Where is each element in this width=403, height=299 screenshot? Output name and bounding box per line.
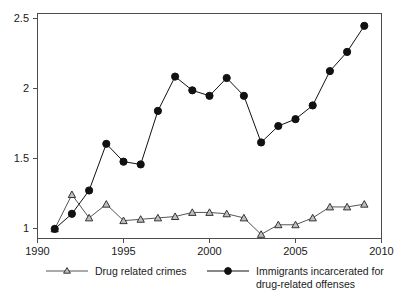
line-chart: 1 1.5 2 2.5 1990 1995 2000 2005 2010 Dru…: [0, 0, 403, 299]
y-tick-label-2-5: 2.5: [14, 12, 29, 24]
circle-marker-icon: [275, 122, 282, 129]
chart-legend: Drug related crimes Immigrants incarcera…: [46, 265, 384, 291]
circle-marker-icon: [103, 140, 110, 147]
x-tick-label-2005: 2005: [283, 245, 307, 257]
circle-marker-icon: [172, 73, 179, 80]
circle-marker-icon: [344, 48, 351, 55]
chart-figure: 1 1.5 2 2.5 1990 1995 2000 2005 2010 Dru…: [0, 0, 403, 299]
circle-marker-icon: [258, 139, 265, 146]
circle-marker-icon: [137, 161, 144, 168]
legend-label-drug-related-crimes: Drug related crimes: [95, 265, 187, 277]
circle-marker-icon: [309, 102, 316, 109]
triangle-marker-icon: [64, 268, 71, 274]
circle-marker-icon: [326, 68, 333, 75]
circle-marker-icon: [240, 92, 247, 99]
legend-label-immigrants-incarcerated-line2: drug-related offenses: [256, 278, 355, 290]
circle-marker-icon: [225, 268, 232, 275]
circle-marker-icon: [223, 74, 230, 81]
circle-marker-icon: [51, 225, 58, 232]
circle-marker-icon: [292, 116, 299, 123]
circle-marker-icon: [361, 22, 368, 29]
x-tick-label-1990: 1990: [25, 245, 49, 257]
x-tick-label-1995: 1995: [111, 245, 135, 257]
circle-marker-icon: [154, 107, 161, 114]
y-tick-label-1: 1: [23, 222, 29, 234]
circle-marker-icon: [86, 187, 93, 194]
legend-label-immigrants-incarcerated-line1: Immigrants incarcerated for: [256, 265, 384, 277]
y-tick-label-1-5: 1.5: [14, 152, 29, 164]
x-axis-ticks: 1990 1995 2000 2005 2010: [25, 239, 393, 258]
y-axis-ticks: 1 1.5 2 2.5: [14, 12, 38, 234]
x-tick-label-2010: 2010: [369, 245, 393, 257]
circle-marker-icon: [68, 210, 75, 217]
y-tick-label-2: 2: [23, 82, 29, 94]
x-tick-label-2000: 2000: [197, 245, 221, 257]
circle-marker-icon: [189, 87, 196, 94]
circle-marker-icon: [120, 158, 127, 165]
circle-marker-icon: [206, 92, 213, 99]
